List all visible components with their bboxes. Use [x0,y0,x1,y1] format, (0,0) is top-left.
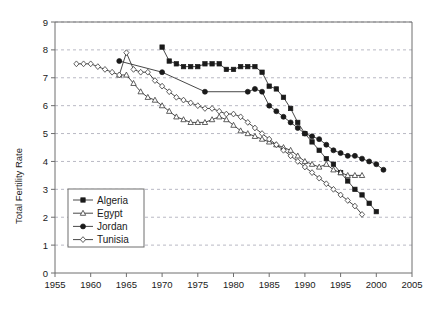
data-point-tunisia [88,61,93,67]
data-point-jordan [310,134,315,139]
data-point-tunisia [74,61,79,67]
data-point-jordan [202,89,207,94]
data-point-tunisia [259,131,264,137]
data-point-tunisia [245,120,250,126]
data-point-algeria [181,64,185,68]
series-jordan [117,59,386,173]
data-point-tunisia [302,164,307,170]
data-point-jordan [281,114,286,119]
data-point-jordan [160,70,165,75]
y-tick-label: 1 [43,240,48,251]
data-point-jordan [338,151,343,156]
data-point-algeria [317,148,321,152]
legend-label: Egypt [97,208,123,219]
data-point-algeria [260,70,264,74]
data-point-algeria [324,156,328,160]
x-axis-tick-labels: 1955196019651970197519801985199019952000… [44,273,422,290]
y-tick-label: 4 [43,156,48,167]
data-point-algeria [203,62,207,66]
chart-container: 0123456789 19551960196519701975198019851… [0,0,424,311]
x-tick-label: 1970 [152,279,173,290]
data-point-algeria [174,62,178,66]
x-tick-label: 1960 [80,279,101,290]
data-point-tunisia [209,106,214,112]
data-point-tunisia [317,175,322,181]
data-point-tunisia [195,103,200,109]
data-point-algeria [217,62,221,66]
data-point-jordan [267,103,272,108]
y-tick-label: 8 [43,44,48,55]
data-point-egypt [231,122,236,127]
data-point-egypt [238,128,243,133]
data-point-egypt [167,108,172,113]
data-point-tunisia [95,64,100,70]
data-point-jordan [360,156,365,161]
x-tick-label: 1990 [294,279,315,290]
data-point-algeria [231,67,235,71]
legend-label: Algeria [97,195,129,206]
data-point-algeria [331,162,335,166]
data-point-egypt [331,167,336,172]
x-tick-label: 1980 [223,279,244,290]
legend-label: Jordan [97,221,128,232]
data-point-tunisia [181,97,186,103]
data-point-tunisia [345,198,350,204]
data-point-algeria [246,64,250,68]
data-point-algeria [310,140,314,144]
data-point-algeria [288,106,292,110]
data-point-jordan [288,120,293,125]
x-tick-label: 1995 [330,279,351,290]
data-point-tunisia [224,111,229,117]
y-tick-label: 6 [43,100,48,111]
data-point-jordan [374,162,379,167]
data-point-jordan [117,59,122,64]
x-tick-label: 2000 [366,279,387,290]
series-line-algeria [162,47,376,212]
data-point-algeria [253,64,257,68]
data-point-jordan [245,89,250,94]
data-point-algeria [274,87,278,91]
data-point-jordan [260,89,265,94]
data-point-jordan [274,109,279,114]
data-point-algeria [296,120,300,124]
y-tick-label: 7 [43,72,48,83]
data-point-algeria [196,64,200,68]
y-tick-label: 2 [43,212,48,223]
fertility-rate-line-chart: 0123456789 19551960196519701975198019851… [0,0,424,311]
series-algeria [160,45,379,214]
x-tick-label: 1975 [187,279,208,290]
y-axis-label: Total Fertility Rate [13,148,24,224]
data-point-algeria [167,59,171,63]
data-point-algeria [281,95,285,99]
data-point-egypt [174,114,179,119]
data-point-algeria [188,64,192,68]
data-point-tunisia [331,186,336,192]
data-point-tunisia [102,67,107,73]
y-axis-tick-labels: 0123456789 [43,17,55,279]
data-point-tunisia [338,192,343,198]
y-tick-label: 5 [43,128,48,139]
data-point-tunisia [160,83,165,89]
data-point-jordan [295,125,300,130]
data-point-tunisia [124,50,129,56]
data-point-jordan [367,159,372,164]
y-tick-label: 9 [43,17,48,28]
data-point-tunisia [167,89,172,95]
data-point-tunisia [309,170,314,176]
data-point-tunisia [217,108,222,114]
x-tick-label: 1965 [116,279,137,290]
data-point-tunisia [238,114,243,120]
data-point-algeria [353,187,357,191]
data-point-algeria [360,193,364,197]
data-point-tunisia [138,69,143,75]
data-point-jordan [302,131,307,136]
data-point-algeria [238,64,242,68]
data-point-tunisia [295,159,300,165]
data-point-tunisia [188,100,193,106]
data-point-tunisia [174,94,179,100]
data-point-jordan [352,153,357,158]
legend-label: Tunisia [97,234,129,245]
x-tick-label: 1955 [44,279,65,290]
data-point-tunisia [202,106,207,112]
legend-marker-jordan [81,224,86,229]
